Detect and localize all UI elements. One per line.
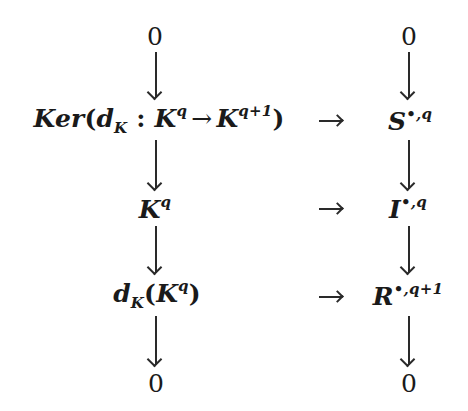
right-arrow-2	[408, 140, 410, 189]
right-arrow-4	[408, 316, 410, 365]
zero-label: 0	[401, 369, 417, 398]
r-base: R	[373, 282, 394, 311]
commutative-diagram: 0 Ker(dK : Kq→Kq+1) Kq dK(Kq) 0 0 S•,q I…	[0, 0, 468, 411]
map-d: d	[96, 104, 114, 133]
image-sup: q	[178, 277, 189, 295]
close-paren: )	[272, 104, 284, 133]
right-arrow-1	[408, 52, 410, 98]
open-paren: (	[84, 104, 96, 133]
arrow-kernel-to-s	[319, 120, 342, 122]
right-top-zero: 0	[401, 24, 417, 49]
i-node: I•,q	[389, 195, 427, 222]
ker-label: Ker	[34, 104, 85, 133]
image-map-sub: K	[131, 294, 144, 312]
zero-label: 0	[401, 22, 417, 51]
right-bottom-zero: 0	[401, 371, 417, 396]
image-open-paren: (	[144, 279, 156, 308]
left-arrow-1	[155, 52, 157, 98]
image-node: dK(Kq)	[113, 279, 201, 311]
arrow-k-to-i	[319, 208, 342, 210]
colon: :	[136, 104, 145, 133]
codomain-sup: q+1	[238, 102, 272, 120]
domain-sup: q	[177, 102, 188, 120]
left-arrow-4	[155, 316, 157, 365]
left-arrow-2	[155, 140, 157, 189]
s-node: S•,q	[388, 107, 432, 134]
map-subscript: K	[114, 119, 127, 137]
left-bottom-zero: 0	[148, 371, 164, 396]
domain-base: K	[155, 104, 177, 133]
left-arrow-3	[155, 226, 157, 273]
r-sup: •,q+1	[394, 280, 443, 298]
i-sup: •,q	[401, 193, 427, 211]
arrow-image-to-r	[319, 296, 342, 298]
image-base: K	[156, 279, 178, 308]
right-arrow-3	[408, 226, 410, 273]
kernel-node: Ker(dK : Kq→Kq+1)	[34, 104, 285, 136]
k-q-node: Kq	[139, 195, 172, 222]
codomain-base: K	[216, 104, 238, 133]
zero-label: 0	[147, 22, 163, 51]
zero-label: 0	[148, 369, 164, 398]
k-base: K	[139, 195, 161, 224]
i-base: I	[389, 195, 401, 224]
image-close-paren: )	[189, 279, 201, 308]
k-sup: q	[161, 193, 172, 211]
r-node: R•,q+1	[373, 282, 443, 309]
image-map-d: d	[113, 279, 131, 308]
inline-arrow: →	[191, 104, 212, 133]
left-top-zero: 0	[147, 24, 163, 49]
s-sup: •,q	[406, 105, 432, 123]
s-base: S	[388, 107, 406, 136]
